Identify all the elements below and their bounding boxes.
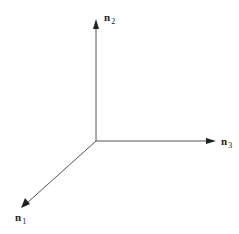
axis-label-n2: n2	[104, 12, 115, 23]
axis-n2	[93, 19, 99, 141]
axis-label-n2-base: n	[104, 11, 110, 23]
arrowhead-down-left-icon	[21, 198, 30, 208]
axis-label-n1: n1	[15, 212, 26, 223]
axis-label-n1-subscript: 1	[22, 217, 26, 226]
diagram-canvas: n2 n3 n1	[0, 0, 239, 234]
axis-label-n2-subscript: 2	[111, 17, 115, 26]
axis-n1-line	[27, 141, 96, 203]
axis-label-n3-base: n	[221, 135, 227, 147]
axes-svg	[0, 0, 239, 234]
axis-label-n3: n3	[221, 136, 232, 147]
arrowhead-up-icon	[93, 19, 99, 29]
axis-n1	[21, 141, 96, 208]
axis-label-n1-base: n	[15, 211, 21, 223]
arrowhead-right-icon	[206, 138, 216, 144]
axis-label-n3-subscript: 3	[228, 141, 232, 150]
axis-n3	[96, 138, 216, 144]
